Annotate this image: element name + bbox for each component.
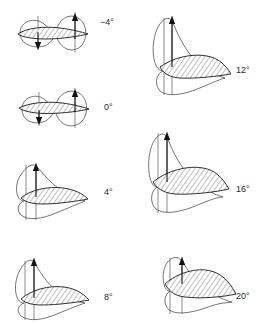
axes-12	[164, 16, 172, 95]
figure-canvas	[0, 0, 266, 325]
panel-0-degrees	[19, 88, 89, 128]
panel-12-degrees	[153, 16, 231, 95]
airfoil-section-16	[153, 167, 229, 194]
angle-label-12: 12°	[236, 66, 250, 75]
airfoil-section-0	[19, 102, 89, 113]
angle-label-8: 8°	[104, 293, 113, 302]
panel-20-degrees	[163, 257, 236, 314]
angle-label-16: 16°	[236, 185, 250, 194]
airfoil-pressure-distribution-figure: −4° 0° 4° 8° 12° 16° 20°	[0, 0, 266, 325]
axes-16	[158, 132, 167, 213]
panel-16-degrees	[149, 132, 229, 213]
airfoil-section-12	[160, 55, 231, 78]
panel-8-degrees	[15, 258, 89, 320]
angle-label-minus-4: −4°	[100, 18, 114, 27]
airfoil-section-minus-4	[18, 27, 88, 39]
axes-8	[25, 258, 34, 320]
airfoil-section-8	[21, 287, 89, 305]
angle-label-20: 20°	[236, 292, 250, 301]
airfoil-section-20	[165, 270, 236, 298]
panel-4-degrees	[17, 163, 88, 220]
angle-label-0: 0°	[104, 103, 113, 112]
panel-minus-4-degrees	[18, 12, 88, 52]
airfoil-section-4	[21, 187, 88, 204]
angle-label-4: 4°	[104, 188, 113, 197]
